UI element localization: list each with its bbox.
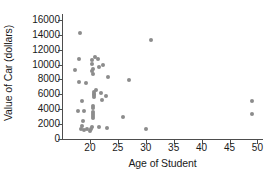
y-axis-tick-label: 12000 [18, 45, 60, 55]
y-axis-tick-mark [58, 79, 62, 80]
y-axis-tick-label: 16000 [18, 15, 60, 25]
data-point [106, 75, 110, 79]
data-point [80, 99, 84, 103]
data-point [91, 72, 95, 76]
data-point [82, 109, 86, 113]
data-point [105, 126, 109, 130]
data-point [101, 63, 105, 67]
y-axis-tick-mark [58, 124, 62, 125]
x-axis-line [62, 139, 263, 140]
data-point [82, 128, 86, 132]
data-point [149, 38, 153, 42]
x-axis-tick-label: 30 [131, 142, 161, 154]
y-axis-tick-label: 10000 [18, 60, 60, 70]
plot-area [62, 14, 263, 140]
data-point [104, 94, 108, 98]
y-axis-tick-mark [58, 65, 62, 66]
data-point [127, 78, 131, 82]
data-point [121, 115, 125, 119]
data-point [90, 62, 94, 66]
y-axis-tick-label: 4000 [18, 104, 60, 114]
y-axis-tick-labels: 0200040006000800010000120001400016000 [16, 0, 60, 179]
y-axis-line [62, 14, 63, 140]
data-point [99, 91, 103, 95]
data-point [92, 95, 96, 99]
y-axis-tick-mark [58, 50, 62, 51]
data-point [88, 129, 92, 133]
x-axis-tick-label: 25 [103, 142, 133, 154]
x-axis-tick-label: 35 [159, 142, 189, 154]
y-axis-tick-label: 6000 [18, 89, 60, 99]
y-axis-title-text: Value of Car (dollars) [2, 24, 14, 120]
x-axis-title: Age of Student [62, 157, 263, 169]
y-axis-title: Value of Car (dollars) [0, 0, 16, 145]
y-axis-tick-mark [58, 94, 62, 95]
y-axis-tick-mark [58, 35, 62, 36]
y-axis-tick-mark [58, 109, 62, 110]
y-axis-tick-mark [58, 139, 62, 140]
data-point [78, 31, 82, 35]
data-point [250, 112, 254, 116]
data-point [91, 116, 95, 120]
x-axis-tick-label: 50 [242, 142, 272, 154]
data-point [73, 68, 77, 72]
data-point [91, 106, 95, 110]
data-point [77, 57, 81, 61]
data-point [96, 57, 100, 61]
x-axis-tick-labels: 20253035404550 [62, 142, 263, 156]
data-point [250, 99, 254, 103]
y-axis-tick-mark [58, 20, 62, 21]
data-point [97, 125, 101, 129]
y-axis-tick-label: 8000 [18, 74, 60, 84]
x-axis-tick-label: 45 [215, 142, 245, 154]
y-axis-tick-label: 2000 [18, 119, 60, 129]
x-axis-tick-label: 40 [187, 142, 217, 154]
data-point [81, 119, 85, 123]
data-point [100, 98, 104, 102]
data-point [97, 65, 101, 69]
data-point [76, 109, 80, 113]
data-point [84, 81, 88, 85]
data-point [77, 80, 81, 84]
x-axis-tick-label: 20 [75, 142, 105, 154]
y-axis-tick-label: 0 [18, 134, 60, 144]
data-point [144, 127, 148, 131]
y-axis-tick-label: 14000 [18, 30, 60, 40]
scatter-plot-figure: Value of Car (dollars) 02000400060008000… [0, 0, 273, 179]
